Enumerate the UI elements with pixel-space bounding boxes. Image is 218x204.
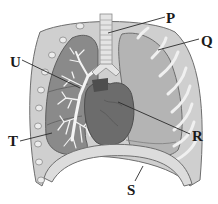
label-s: S (127, 182, 135, 198)
label-r: R (192, 128, 203, 144)
heart (84, 82, 133, 146)
label-p: P (166, 10, 175, 26)
thoracic-cavity-diagram: P Q U R T S (0, 0, 218, 204)
heart-vessel (92, 78, 108, 92)
label-u: U (10, 54, 21, 70)
label-q: Q (201, 33, 213, 49)
label-t: T (8, 133, 18, 149)
leader-line-s (135, 166, 143, 181)
